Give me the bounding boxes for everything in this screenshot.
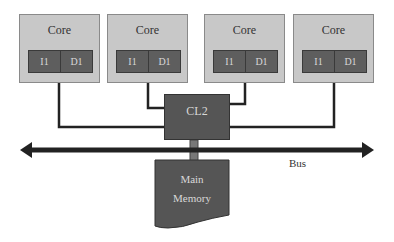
cache-d1: D1	[245, 51, 277, 72]
bus-label: Bus	[289, 157, 306, 169]
cache-d1: D1	[334, 51, 366, 72]
core-label: Core	[294, 23, 373, 38]
core-1-caches: I1 D1	[28, 50, 93, 73]
bus-arrow-right-icon	[362, 142, 374, 158]
core-4: Core I1 D1	[293, 14, 374, 83]
cache-d1: D1	[60, 51, 92, 72]
core3-to-cl2-wire	[230, 83, 245, 104]
memory-label-line1: Main	[155, 170, 229, 189]
core-3: Core I1 D1	[204, 14, 285, 83]
core-label: Core	[20, 23, 99, 38]
bus-arrow-left-icon	[20, 142, 32, 158]
core-4-caches: I1 D1	[302, 50, 367, 73]
memory-label-line2: Memory	[155, 189, 229, 208]
core-label: Core	[205, 23, 284, 38]
cache-i1: I1	[214, 51, 245, 72]
cache-i1: I1	[303, 51, 334, 72]
core-2: Core I1 D1	[107, 14, 188, 83]
core2-to-cl2-wire	[148, 83, 164, 108]
core-3-caches: I1 D1	[213, 50, 278, 73]
core-2-caches: I1 D1	[116, 50, 181, 73]
cache-d1: D1	[148, 51, 180, 72]
core-1: Core I1 D1	[19, 14, 100, 83]
cache-i1: I1	[117, 51, 148, 72]
shared-l2-cache: CL2	[164, 94, 230, 140]
core-label: Core	[108, 23, 187, 38]
cache-i1: I1	[29, 51, 60, 72]
